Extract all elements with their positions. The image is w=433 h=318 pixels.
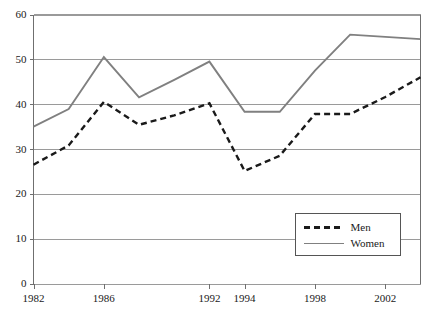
y-axis-label-10: 10 [0, 233, 27, 244]
y-axis-ticks [30, 16, 34, 285]
x-axis-label-1994: 1994 [220, 293, 270, 304]
legend-frame [296, 214, 401, 256]
x-axis-label-2002: 2002 [360, 293, 410, 304]
chart-plot-area [0, 0, 433, 318]
legend-box [296, 214, 401, 256]
y-axis-label-0: 0 [0, 278, 27, 289]
line-chart: 0102030405060 198219861992199419982002 M… [0, 0, 433, 318]
x-axis-label-1986: 1986 [79, 293, 129, 304]
y-axis-label-20: 20 [0, 188, 27, 199]
data-series [34, 35, 421, 171]
x-axis-label-1998: 1998 [290, 293, 340, 304]
legend-label-women: Women [351, 238, 385, 249]
y-axis-label-40: 40 [0, 99, 27, 110]
x-axis-label-1982: 1982 [9, 293, 59, 304]
legend-label-men: Men [351, 222, 371, 233]
series-line-men [34, 77, 421, 171]
y-axis-label-60: 60 [0, 9, 27, 20]
y-axis-label-30: 30 [0, 144, 27, 155]
series-line-women [34, 35, 421, 127]
y-axis-label-50: 50 [0, 54, 27, 65]
